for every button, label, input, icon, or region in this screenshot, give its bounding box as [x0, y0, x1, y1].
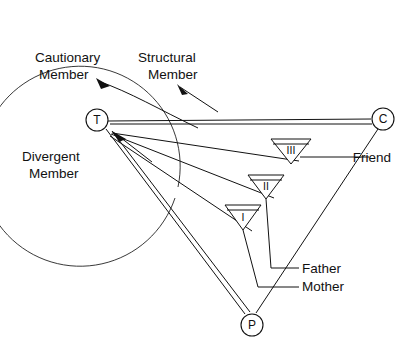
friend-label: Friend: [353, 150, 391, 165]
network-diagram: T C P III II I: [0, 0, 414, 346]
father-label: Father: [302, 261, 342, 276]
node-c[interactable]: C: [372, 108, 394, 130]
triangle-iii-label: III: [287, 144, 296, 156]
node-c-label: C: [379, 112, 388, 126]
triangle-ii[interactable]: II: [248, 175, 284, 199]
triangle-ii-label: II: [263, 180, 269, 192]
node-t-label: T: [93, 113, 101, 127]
divergent-member-line1: Divergent: [22, 149, 80, 164]
structural-member-callout-arrow: [177, 84, 218, 112]
divergent-member-line2: Member: [29, 166, 79, 181]
node-p[interactable]: P: [241, 314, 263, 336]
node-t[interactable]: T: [86, 109, 108, 131]
node-p-label: P: [248, 318, 256, 332]
structural-member-label: Structural Member: [138, 50, 198, 82]
structural-member-line2: Member: [148, 67, 198, 82]
divergent-member-label: Divergent Member: [22, 149, 80, 181]
triangle-iii[interactable]: III: [271, 139, 311, 164]
structural-member-line1: Structural: [138, 50, 196, 65]
triangle-i[interactable]: I: [225, 205, 261, 230]
cautionary-member-label: Cautionary Member: [35, 50, 101, 82]
mother-label: Mother: [302, 279, 345, 294]
cautionary-member-line2: Member: [39, 67, 89, 82]
diagram-canvas: T C P III II I: [0, 0, 414, 346]
divergent-region-arc: [0, 66, 180, 266]
cautionary-member-line1: Cautionary: [35, 50, 101, 65]
triangle-i-label: I: [242, 211, 245, 223]
